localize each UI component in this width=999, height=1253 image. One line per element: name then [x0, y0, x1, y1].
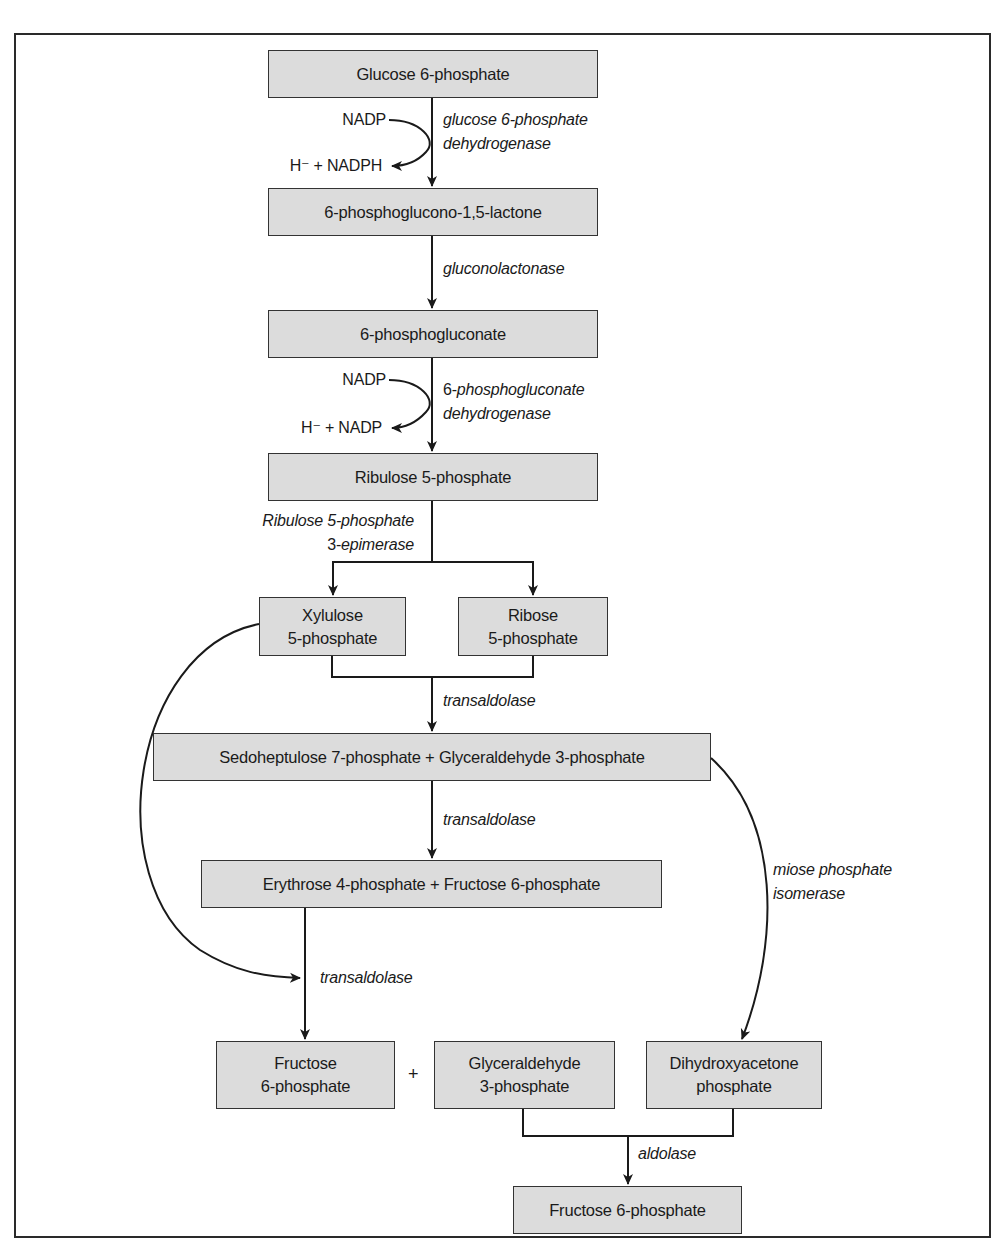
plus-sign: +	[408, 1064, 419, 1085]
node-sedoheptulose-glyceraldehyde: Sedoheptulose 7-phosphate + Glyceraldehy…	[153, 733, 711, 781]
node-6-phosphoglucono-lactone: 6-phosphoglucono-1,5-lactone	[268, 188, 598, 236]
enzyme-line1: phosphogluconate	[457, 381, 585, 398]
enzyme-line1: glucose 6-phosphate	[443, 108, 588, 132]
enzyme-line2: dehydrogenase	[443, 132, 588, 156]
enzyme-g6pd: glucose 6-phosphate dehydrogenase	[443, 108, 588, 156]
node-ribulose-5-phosphate: Ribulose 5-phosphate	[268, 453, 598, 501]
node-glucose-6-phosphate: Glucose 6-phosphate	[268, 50, 598, 98]
node-6-phosphogluconate: 6-phosphogluconate	[268, 310, 598, 358]
node-label-line1: Dihydroxyacetone	[670, 1052, 799, 1075]
node-label-line1: Xylulose	[302, 604, 363, 627]
node-label-line2: 5-phosphate	[488, 627, 578, 650]
node-ribose-5-phosphate: Ribose 5-phosphate	[458, 597, 608, 656]
enzyme-line2: epimerase	[341, 536, 414, 553]
node-erythrose-fructose: Erythrose 4-phosphate + Fructose 6-phosp…	[201, 860, 662, 908]
cofactor-nadp-out-2: H⁻ + NADP	[301, 416, 382, 440]
cofactor-nadph-out-1: H⁻ + NADPH	[290, 154, 382, 178]
enzyme-gluconolactonase: gluconolactonase	[443, 257, 564, 281]
node-label: Glucose 6-phosphate	[356, 63, 509, 86]
node-glyceraldehyde-3-phosphate: Glyceraldehyde 3-phosphate	[434, 1041, 615, 1109]
node-label: 6-phosphoglucono-1,5-lactone	[324, 201, 541, 224]
enzyme-prefix: 3-	[327, 536, 341, 553]
node-label: 6-phosphogluconate	[360, 323, 506, 346]
node-label-line1: Glyceraldehyde	[469, 1052, 581, 1075]
node-label-line2: phosphate	[696, 1075, 771, 1098]
node-label: Sedoheptulose 7-phosphate + Glyceraldehy…	[219, 746, 644, 769]
node-label-line1: Fructose	[274, 1052, 337, 1075]
enzyme-line1: Ribulose 5-phosphate	[262, 509, 414, 533]
enzyme-rpe: Ribulose 5-phosphate 3-epimerase	[262, 509, 414, 557]
node-label: Ribulose 5-phosphate	[355, 466, 512, 489]
node-label-line2: 5-phosphate	[288, 627, 378, 650]
enzyme-transaldolase-3: transaldolase	[320, 966, 413, 990]
cofactor-nadp-2: NADP	[342, 368, 386, 392]
enzyme-6pgd: 6-phosphogluconate dehydrogenase	[443, 378, 584, 426]
cofactor-nadp-1: NADP	[342, 108, 386, 132]
enzyme-triose-phosphate-isomerase: miose phosphate isomerase	[773, 858, 892, 906]
node-fructose-6-phosphate-a: Fructose 6-phosphate	[216, 1041, 395, 1109]
node-xylulose-5-phosphate: Xylulose 5-phosphate	[259, 597, 406, 656]
node-label-line2: 6-phosphate	[261, 1075, 351, 1098]
enzyme-transaldolase-2: transaldolase	[443, 808, 536, 832]
enzyme-line1: miose phosphate	[773, 858, 892, 882]
enzyme-prefix: 6-	[443, 381, 457, 398]
enzyme-line2: dehydrogenase	[443, 402, 584, 426]
node-dihydroxyacetone-phosphate: Dihydroxyacetone phosphate	[646, 1041, 822, 1109]
node-fructose-6-phosphate-b: Fructose 6-phosphate	[513, 1186, 742, 1234]
node-label-line1: Ribose	[508, 604, 558, 627]
enzyme-transaldolase-1: transaldolase	[443, 689, 536, 713]
node-label: Fructose 6-phosphate	[549, 1199, 706, 1222]
enzyme-aldolase: aldolase	[638, 1142, 696, 1166]
node-label-line2: 3-phosphate	[480, 1075, 570, 1098]
node-label: Erythrose 4-phosphate + Fructose 6-phosp…	[263, 873, 600, 896]
enzyme-line2: isomerase	[773, 882, 892, 906]
